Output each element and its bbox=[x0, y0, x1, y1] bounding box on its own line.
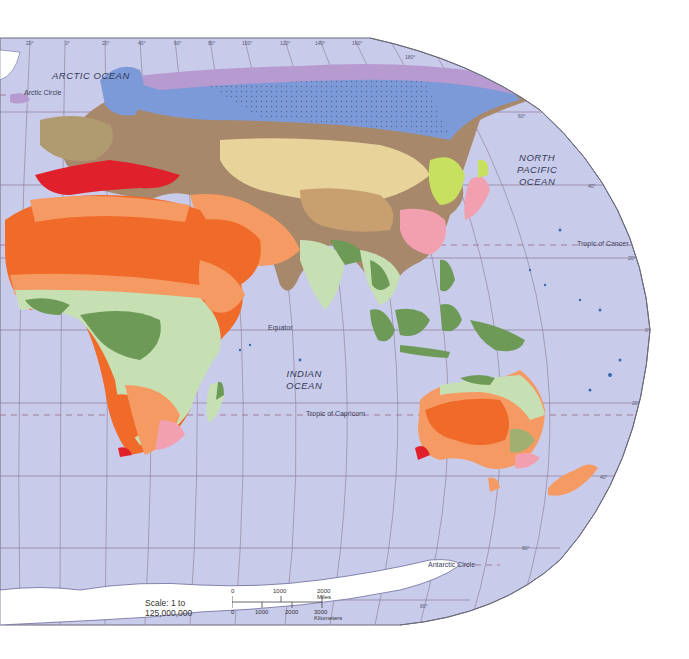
scale-mi-1000: 1000 bbox=[273, 588, 286, 594]
ocean-label-line: INDIAN bbox=[286, 368, 322, 380]
lat-tick: 80° bbox=[420, 603, 428, 609]
lon-tick: 80° bbox=[208, 40, 216, 46]
ocean-label-line: NORTH bbox=[517, 152, 557, 164]
tropic-of-capricorn-label: Tropic of Capricorn bbox=[306, 410, 365, 417]
lon-tick: 0° bbox=[65, 40, 70, 46]
ocean-label-line: PACIFIC bbox=[517, 164, 557, 176]
scale-km-2000: 2000 bbox=[285, 609, 298, 615]
scale-km-3000: 3000 Kilometers bbox=[314, 609, 342, 621]
lat-tick: 0° bbox=[645, 327, 650, 333]
lon-tick: 60° bbox=[174, 40, 182, 46]
lon-tick: 20° bbox=[26, 40, 34, 46]
antarctic-circle-label: Antarctic Circle bbox=[428, 561, 475, 568]
scale-km-1000: 1000 bbox=[255, 609, 268, 615]
lat-tick: 60° bbox=[522, 545, 530, 551]
ocean-label-indian: INDIAN OCEAN bbox=[286, 368, 322, 392]
ocean-label-line: OCEAN bbox=[286, 380, 322, 392]
arctic-circle-label: Arctic Circle bbox=[24, 89, 61, 96]
ocean-label-north-pacific: NORTH PACIFIC OCEAN bbox=[517, 152, 557, 188]
lon-tick: 140° bbox=[315, 40, 325, 46]
lon-tick: 180° bbox=[405, 54, 415, 60]
scale-km-0: 0 bbox=[231, 609, 234, 615]
lat-tick: 60° bbox=[518, 113, 526, 119]
lon-tick: 160° bbox=[352, 40, 362, 46]
lon-tick: 20° bbox=[102, 40, 110, 46]
scale-ratio: Scale: 1 to 125,000,000 bbox=[145, 598, 192, 618]
lat-tick: 20° bbox=[632, 400, 640, 406]
lon-tick: 40° bbox=[138, 40, 146, 46]
scale-mi-2000: 2000 Miles bbox=[317, 588, 332, 600]
lon-tick: 100° bbox=[242, 40, 252, 46]
equator-label: Equator bbox=[268, 324, 293, 331]
lat-tick: 40° bbox=[600, 474, 608, 480]
lon-tick: 120° bbox=[280, 40, 290, 46]
ocean-label-line: OCEAN bbox=[517, 176, 557, 188]
tropic-of-cancer-label: Tropic of Cancer bbox=[577, 240, 628, 247]
lat-tick: 20° bbox=[628, 255, 636, 261]
scale-mi-0: 0 bbox=[231, 588, 234, 594]
climate-map bbox=[0, 0, 689, 659]
lat-tick: 40° bbox=[588, 183, 596, 189]
ocean-label-arctic: ARCTIC OCEAN bbox=[52, 70, 130, 82]
scale-bar: 0 1000 2000 Miles 0 1000 2000 3000 Kilom… bbox=[232, 588, 332, 618]
